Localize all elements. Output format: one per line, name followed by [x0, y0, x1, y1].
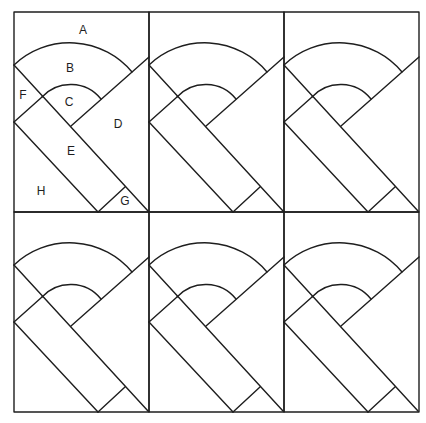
label-d: D [114, 117, 123, 131]
block-r1c3 [284, 12, 419, 212]
block-r2c2 [149, 212, 284, 412]
quilt-diagram: A B C D E F G H [0, 0, 426, 423]
block-r2c1 [14, 212, 149, 412]
label-c: C [65, 95, 74, 109]
label-f: F [19, 88, 26, 102]
label-g: G [120, 194, 129, 208]
block-r1c1 [14, 12, 149, 212]
label-e: E [67, 144, 75, 158]
quilt-grid [14, 12, 419, 412]
label-a: A [79, 23, 87, 37]
label-h: H [37, 184, 46, 198]
label-b: B [66, 61, 74, 75]
block-r2c3 [284, 212, 419, 412]
block-r1c2 [149, 12, 284, 212]
